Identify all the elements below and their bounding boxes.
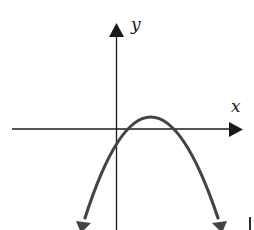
edge-mark (249, 217, 251, 230)
x-axis-label: x (231, 98, 241, 115)
y-axis-arrow-icon (109, 23, 124, 37)
x-axis-arrow-icon (229, 122, 243, 137)
coordinate-plane (0, 0, 254, 230)
curve-left-arrow-icon (76, 221, 91, 230)
curve-right-arrow-icon (212, 221, 227, 230)
y-axis-label: y (131, 16, 141, 33)
parabola-curve (85, 117, 218, 218)
